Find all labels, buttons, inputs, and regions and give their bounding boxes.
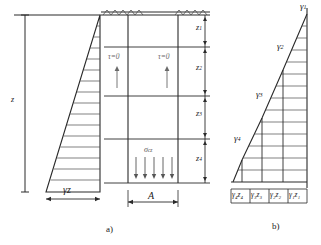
base-dim-arrow-left [46,197,51,201]
depth-marker-z1: z1 [196,24,202,32]
layer-label-gamma4-subscript: 4 [238,136,241,142]
pressure-label: σcz [144,146,152,154]
depth-marker-z2-subscript: 2 [199,65,202,71]
depth-marker-z1-subscript: 1 [199,25,202,31]
caption-panel-a: a) [106,224,113,234]
base-dim-arrow-right [95,197,100,201]
depth-marker-z2: z2 [196,64,202,72]
layer-label-gamma2: γ2 [277,42,284,51]
stress-wedge-outline [46,15,100,192]
layer-label-gamma3-subscript: 3 [260,92,263,98]
pressure-arrows [134,157,174,179]
panel-b-bottom-label-0: γ₄z₄ [232,191,243,199]
layer-label-gamma2-subscript: 2 [281,44,284,50]
width-dim-arrow-left [128,200,133,204]
layer-label-gamma1-subscript: 1 [304,4,307,10]
panel-b-hatching [238,26,307,170]
figure-root: z γz τ=0 τ=0 σcz A z1 z2 z3 z4 γ1 γ2 γ3 … [0,0,321,245]
width-label: A [148,191,154,201]
pressure-label-subscript: cz [148,147,153,153]
panel-b-bottom-label-3: γ₁z₁ [289,191,300,199]
depth-axis-label-a: z [11,96,14,104]
layer-label-gamma3: γ3 [256,90,263,99]
width-dim-arrow-right [173,200,178,204]
panel-b-bottom-label-2: γ₂z₂ [270,191,281,199]
shear-label-right: τ=0 [158,53,170,61]
stress-wedge-hatching [51,26,101,180]
shear-arrow-left [115,66,120,88]
layer-label-gamma1: γ1 [300,2,307,11]
shear-label-left: τ=0 [108,53,120,61]
base-stress-label: γz [63,185,71,195]
shear-arrow-right [165,66,170,88]
depth-marker-z3-subscript: 3 [199,111,202,117]
layer-label-gamma4: γ4 [234,134,241,143]
depth-marker-z3: z3 [196,110,202,118]
caption-panel-b: b) [272,221,280,231]
diagram-canvas [0,0,321,245]
panel-b-bottom-label-1: γ₃z₃ [251,191,262,199]
depth-marker-z4: z4 [196,155,202,163]
depth-marker-z4-subscript: 4 [199,156,202,162]
